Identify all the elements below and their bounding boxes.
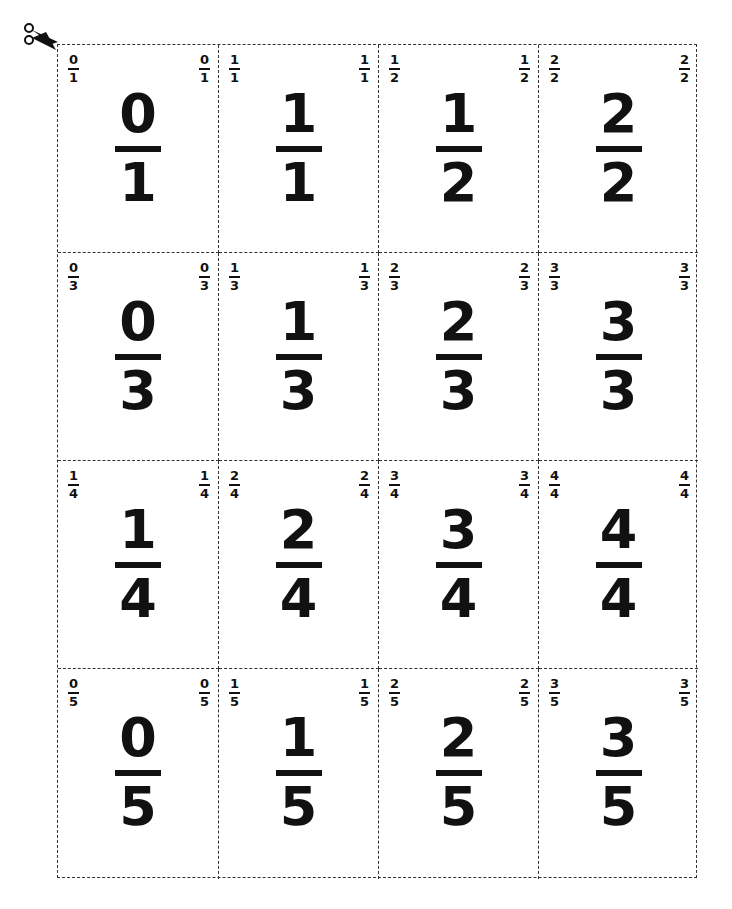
numerator: 0 [200, 677, 209, 690]
corner-fraction-right: 34 [519, 469, 530, 500]
numerator: 2 [550, 53, 559, 66]
denominator: 5 [280, 780, 318, 834]
denominator: 1 [119, 156, 157, 210]
corner-fraction-right: 12 [519, 53, 530, 84]
numerator: 1 [230, 261, 239, 274]
main-fraction: 14 [58, 503, 218, 626]
numerator: 1 [200, 469, 209, 482]
fraction-card: 444444 [539, 461, 698, 669]
denominator: 5 [550, 695, 559, 708]
corner-fraction-left: 33 [549, 261, 560, 292]
numerator: 3 [600, 711, 638, 765]
corner-fraction-left: 05 [68, 677, 79, 708]
denominator: 5 [680, 695, 689, 708]
denominator: 5 [200, 695, 209, 708]
fraction-card: 222222 [539, 45, 698, 253]
denominator: 5 [600, 780, 638, 834]
denominator: 2 [550, 71, 559, 84]
fraction-card: 050505 [58, 669, 219, 879]
denominator: 5 [390, 695, 399, 708]
corner-fraction-right: 01 [199, 53, 210, 84]
numerator: 0 [69, 53, 78, 66]
denominator: 4 [69, 487, 78, 500]
corner-fraction-right: 05 [199, 677, 210, 708]
numerator: 3 [600, 295, 638, 349]
numerator: 0 [200, 53, 209, 66]
numerator: 1 [280, 87, 318, 141]
denominator: 3 [680, 279, 689, 292]
numerator: 4 [680, 469, 689, 482]
numerator: 2 [440, 295, 478, 349]
numerator: 2 [230, 469, 239, 482]
main-fraction: 11 [219, 87, 378, 210]
numerator: 3 [680, 677, 689, 690]
corner-fraction-left: 11 [229, 53, 240, 84]
denominator: 4 [550, 487, 559, 500]
numerator: 2 [520, 261, 529, 274]
corner-fraction-left: 35 [549, 677, 560, 708]
corner-fraction-right: 24 [359, 469, 370, 500]
corner-fraction-left: 12 [389, 53, 400, 84]
denominator: 3 [600, 364, 638, 418]
main-fraction: 44 [539, 503, 698, 626]
denominator: 4 [200, 487, 209, 500]
corner-fraction-left: 25 [389, 677, 400, 708]
numerator: 2 [520, 677, 529, 690]
denominator: 4 [520, 487, 529, 500]
denominator: 4 [280, 572, 318, 626]
main-fraction: 01 [58, 87, 218, 210]
main-fraction: 12 [379, 87, 538, 210]
fraction-card: 353535 [539, 669, 698, 879]
fraction-card: 111111 [219, 45, 379, 253]
corner-fraction-left: 23 [389, 261, 400, 292]
main-fraction: 34 [379, 503, 538, 626]
numerator: 3 [390, 469, 399, 482]
corner-fraction-right: 22 [679, 53, 690, 84]
fraction-card: 252525 [379, 669, 539, 879]
denominator: 5 [440, 780, 478, 834]
corner-fraction-right: 44 [679, 469, 690, 500]
denominator: 4 [360, 487, 369, 500]
numerator: 0 [119, 295, 157, 349]
numerator: 0 [119, 87, 157, 141]
denominator: 2 [390, 71, 399, 84]
corner-fraction-right: 11 [359, 53, 370, 84]
numerator: 1 [520, 53, 529, 66]
numerator: 2 [390, 261, 399, 274]
numerator: 2 [390, 677, 399, 690]
corner-fraction-right: 15 [359, 677, 370, 708]
denominator: 3 [520, 279, 529, 292]
denominator: 3 [390, 279, 399, 292]
denominator: 3 [550, 279, 559, 292]
fraction-card: 333333 [539, 253, 698, 461]
denominator: 4 [119, 572, 157, 626]
corner-fraction-left: 34 [389, 469, 400, 500]
corner-fraction-left: 24 [229, 469, 240, 500]
scissors-icon [22, 20, 62, 54]
numerator: 0 [69, 677, 78, 690]
main-fraction: 24 [219, 503, 378, 626]
denominator: 4 [600, 572, 638, 626]
main-fraction: 25 [379, 711, 538, 834]
numerator: 1 [230, 53, 239, 66]
numerator: 1 [440, 87, 478, 141]
denominator: 3 [440, 364, 478, 418]
numerator: 4 [600, 503, 638, 557]
fraction-card: 343434 [379, 461, 539, 669]
numerator: 1 [280, 295, 318, 349]
corner-fraction-left: 13 [229, 261, 240, 292]
numerator: 1 [280, 711, 318, 765]
fraction-card: 121212 [379, 45, 539, 253]
fraction-card: 131313 [219, 253, 379, 461]
fraction-card: 242424 [219, 461, 379, 669]
denominator: 3 [69, 279, 78, 292]
denominator: 4 [390, 487, 399, 500]
main-fraction: 33 [539, 295, 698, 418]
denominator: 3 [200, 279, 209, 292]
fraction-card: 030303 [58, 253, 219, 461]
denominator: 4 [680, 487, 689, 500]
corner-fraction-left: 14 [68, 469, 79, 500]
numerator: 1 [119, 503, 157, 557]
denominator: 2 [440, 156, 478, 210]
denominator: 5 [230, 695, 239, 708]
